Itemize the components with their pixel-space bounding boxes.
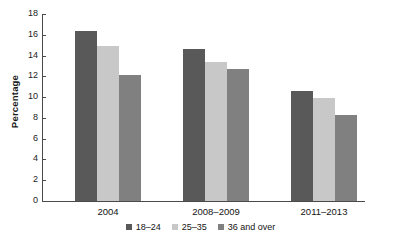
- y-axis-tick-mark: [42, 201, 46, 202]
- y-axis-tick-mark: [42, 56, 46, 57]
- y-axis-tick-mark: [42, 180, 46, 181]
- y-axis-tick: 0: [42, 201, 46, 202]
- y-axis-tick-mark: [42, 14, 46, 15]
- y-axis-tick-label: 10: [28, 91, 38, 102]
- legend-label: 36 and over: [228, 222, 276, 232]
- y-axis-tick-label: 8: [33, 112, 38, 123]
- y-axis-tick: 8: [42, 118, 46, 119]
- y-axis-tick: 10: [42, 97, 46, 98]
- x-axis-line: [42, 201, 365, 202]
- x-axis-category-label: 2004: [48, 206, 168, 217]
- y-axis-tick: 4: [42, 159, 46, 160]
- bar: [183, 49, 205, 201]
- y-axis-tick: 12: [42, 76, 46, 77]
- y-axis-tick-mark: [42, 159, 46, 160]
- legend-item: 25–35: [172, 222, 207, 232]
- bar: [291, 91, 313, 201]
- y-axis-tick-mark: [42, 97, 46, 98]
- legend-item: 36 and over: [218, 222, 276, 232]
- chart-legend: 18–2425–3536 and over: [0, 222, 401, 232]
- legend-label: 18–24: [136, 222, 161, 232]
- y-axis-tick-mark: [42, 35, 46, 36]
- y-axis-tick: 16: [42, 35, 46, 36]
- bar-group: [183, 14, 249, 201]
- y-axis-tick: 2: [42, 180, 46, 181]
- y-axis-tick-label: 2: [33, 174, 38, 185]
- bar-group: [291, 14, 357, 201]
- bar: [335, 115, 357, 201]
- x-axis-category-label: 2011–2013: [264, 206, 384, 217]
- y-axis-tick-label: 0: [33, 195, 38, 206]
- y-axis-tick-label: 4: [33, 153, 38, 164]
- y-axis-tick-mark: [42, 118, 46, 119]
- y-axis-tick: 18: [42, 14, 46, 15]
- y-axis-tick-label: 12: [28, 70, 38, 81]
- legend-label: 25–35: [182, 222, 207, 232]
- x-axis-category-label: 2008–2009: [156, 206, 276, 217]
- y-axis-tick-label: 16: [28, 29, 38, 40]
- bar: [75, 31, 97, 201]
- bar: [205, 62, 227, 201]
- plot-area: 024681012141618 20042008–20092011–2013: [42, 14, 365, 202]
- y-axis-tick-label: 18: [28, 8, 38, 19]
- y-axis-tick-label: 6: [33, 133, 38, 144]
- legend-swatch-icon: [218, 224, 224, 230]
- bar: [313, 98, 335, 201]
- y-axis-tick: 14: [42, 56, 46, 57]
- bar-group: [75, 14, 141, 201]
- y-axis-tick-mark: [42, 139, 46, 140]
- legend-item: 18–24: [126, 222, 161, 232]
- legend-swatch-icon: [172, 224, 178, 230]
- y-axis-title: Percentage: [9, 57, 20, 147]
- bar: [227, 69, 249, 201]
- bar: [97, 46, 119, 201]
- y-axis-tick: 6: [42, 139, 46, 140]
- y-axis-tick-mark: [42, 76, 46, 77]
- y-axis-tick-label: 14: [28, 50, 38, 61]
- bar-chart-figure: Percentage 024681012141618 20042008–2009…: [0, 0, 401, 244]
- legend-swatch-icon: [126, 224, 132, 230]
- y-axis-line: [42, 14, 43, 202]
- bar: [119, 75, 141, 201]
